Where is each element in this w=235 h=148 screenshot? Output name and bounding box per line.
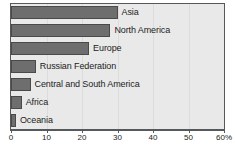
bar: [11, 42, 89, 55]
bar-category-label: Africa: [22, 98, 48, 107]
bar-row: Africa: [11, 96, 48, 109]
bar-series: AsiaNorth AmericaEuropeRussian Federatio…: [11, 4, 224, 129]
bar-category-label: Oceania: [16, 116, 53, 125]
bar-row: Russian Federation: [11, 60, 116, 73]
bar: [11, 24, 110, 37]
bar-row: Oceania: [11, 114, 53, 127]
bar-category-label: Europe: [89, 44, 121, 53]
bar-row: North America: [11, 24, 170, 37]
bar-row: Europe: [11, 42, 122, 55]
bar-category-label: Russian Federation: [36, 62, 116, 71]
x-axis-tick-label: 0: [9, 134, 13, 142]
bar-chart: AsiaNorth AmericaEuropeRussian Federatio…: [0, 0, 235, 148]
bar: [11, 78, 31, 91]
plot-area: AsiaNorth AmericaEuropeRussian Federatio…: [10, 3, 225, 130]
bar: [11, 6, 118, 19]
bar: [11, 60, 36, 73]
x-axis-tick-label: 10: [42, 134, 51, 142]
x-axis: 0102030405060%: [10, 130, 225, 148]
x-axis-tick-label: 50: [184, 134, 193, 142]
x-axis-tick-label: 20: [78, 134, 87, 142]
bar-category-label: Asia: [118, 8, 139, 17]
x-axis-tick-label: 60%: [216, 134, 232, 142]
x-axis-tick-label: 30: [113, 134, 122, 142]
bar-category-label: Central and South America: [31, 80, 140, 89]
bar: [11, 96, 22, 109]
bar-row: Asia: [11, 6, 139, 19]
bar-category-label: North America: [110, 26, 170, 35]
bar-row: Central and South America: [11, 78, 140, 91]
x-axis-tick-label: 40: [149, 134, 158, 142]
